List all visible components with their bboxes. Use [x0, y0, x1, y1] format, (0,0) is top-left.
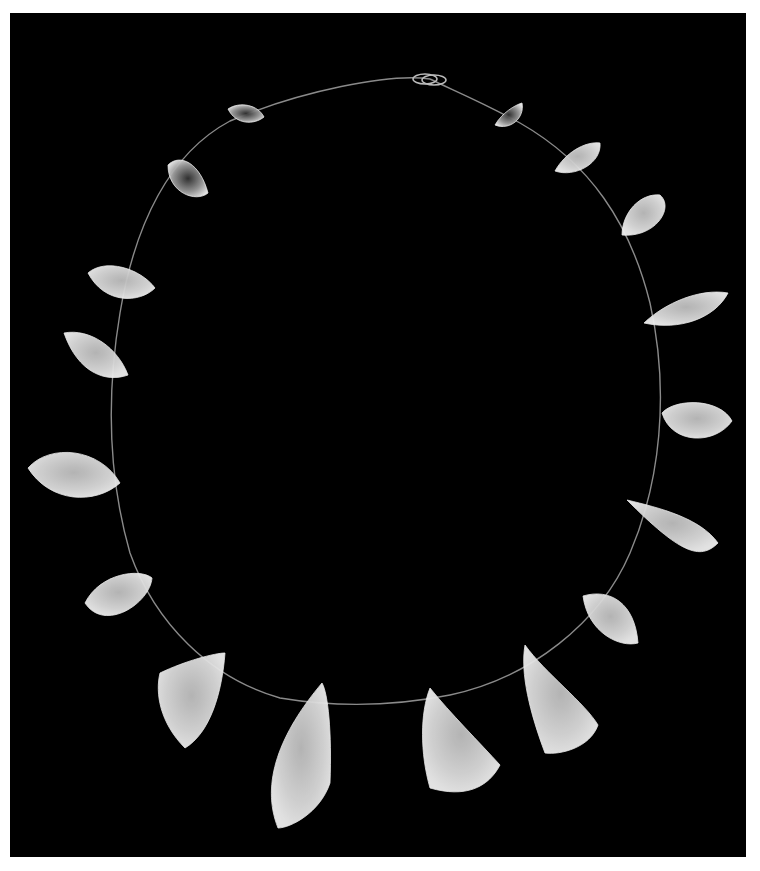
- crystal-bead: [555, 143, 600, 173]
- crystal-bead: [158, 653, 225, 748]
- crystal-bead: [622, 195, 665, 235]
- crystal-bead: [168, 160, 208, 197]
- crystal-bead: [662, 403, 732, 439]
- necklace-illustration: [10, 13, 746, 857]
- crystal-bead: [524, 645, 598, 753]
- crystal-bead: [28, 452, 120, 497]
- necklace-photo: [10, 13, 746, 857]
- crystal-bead: [495, 103, 522, 126]
- crystal-bead: [644, 292, 728, 325]
- crystal-beads: [28, 103, 732, 828]
- crystal-bead: [64, 332, 128, 377]
- crystal-bead: [88, 266, 155, 299]
- crystal-bead: [583, 594, 638, 644]
- crystal-bead: [423, 688, 501, 792]
- crystal-bead: [271, 683, 330, 828]
- crystal-bead: [85, 573, 152, 615]
